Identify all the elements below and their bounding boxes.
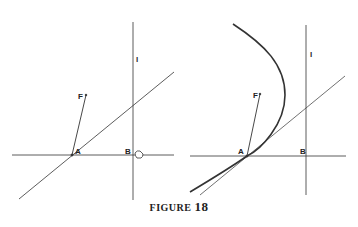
label-B-right: B [300, 147, 306, 156]
parabola-curve [190, 24, 285, 192]
figure-caption: FIGURE 18 [0, 199, 358, 215]
segment-AF [247, 94, 260, 156]
figure-18-diagram: A B F l A B F l [0, 0, 358, 227]
point-A [246, 155, 248, 157]
point-F [85, 94, 87, 96]
left-panel [12, 22, 174, 200]
label-l-left: l [136, 55, 138, 64]
label-A-left: A [75, 147, 81, 156]
caption-number: 18 [194, 199, 208, 214]
tangent-line [200, 76, 345, 195]
right-panel [190, 24, 346, 195]
label-F-right: F [253, 91, 258, 100]
label-B-left: B [125, 147, 131, 156]
point-F [259, 93, 261, 95]
pointer-cursor-icon[interactable] [135, 151, 143, 158]
label-A-right: A [238, 147, 244, 156]
label-F-left: F [78, 92, 83, 101]
diagonal-line [19, 72, 174, 199]
label-l-right: l [310, 50, 312, 59]
caption-word: FIGURE [150, 202, 192, 213]
point-A [71, 154, 73, 156]
